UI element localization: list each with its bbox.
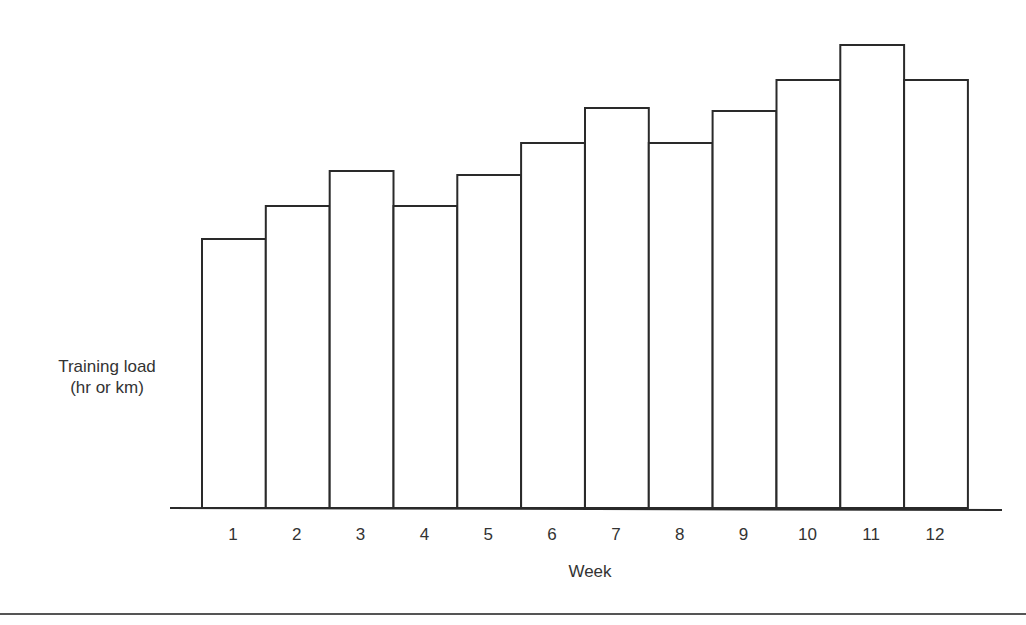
x-tick-label: 2	[292, 525, 301, 544]
x-tick-label: 12	[926, 525, 945, 544]
x-axis-label: Week	[540, 562, 640, 582]
x-tick-label: 4	[420, 525, 429, 544]
bar-week-12	[904, 80, 968, 508]
x-tick-label: 8	[675, 525, 684, 544]
x-tick-label: 10	[798, 525, 817, 544]
training-load-bar-chart: 123456789101112	[0, 0, 1026, 625]
bar-week-1	[202, 239, 266, 508]
y-axis-label: Training load (hr or km)	[22, 356, 192, 398]
caption-separator-line	[0, 613, 1026, 615]
x-tick-label: 6	[547, 525, 556, 544]
x-tick-labels: 123456789101112	[228, 525, 944, 544]
x-tick-label: 11	[862, 525, 880, 544]
bar-week-10	[777, 80, 841, 508]
x-tick-label: 9	[739, 525, 748, 544]
bar-week-5	[457, 175, 521, 508]
x-tick-label: 1	[228, 525, 237, 544]
y-axis-label-line-1: Training load	[22, 356, 192, 377]
bar-week-8	[649, 143, 713, 508]
bar-week-3	[330, 171, 394, 508]
bar-week-4	[394, 206, 458, 508]
bar-week-7	[585, 108, 649, 508]
bar-week-9	[713, 111, 777, 508]
bar-week-6	[521, 143, 585, 508]
x-tick-label: 3	[356, 525, 365, 544]
y-axis-label-line-2: (hr or km)	[22, 377, 192, 398]
bars-group	[202, 45, 968, 508]
bar-week-2	[266, 206, 330, 508]
x-tick-label: 7	[611, 525, 620, 544]
x-tick-label: 5	[483, 525, 492, 544]
bar-week-11	[840, 45, 904, 508]
